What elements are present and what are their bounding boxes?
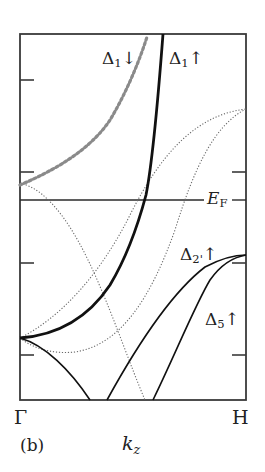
label-delta2prime-up: Δ2'↑ xyxy=(180,246,217,266)
spin-up-arrow-icon: ↑ xyxy=(203,244,217,264)
kpoint-gamma-label: Γ xyxy=(14,408,27,427)
label-subscript: 1 xyxy=(114,56,121,70)
delta1-up-band xyxy=(20,34,163,338)
fermi-symbol: E xyxy=(207,188,219,208)
band-structure-plot xyxy=(0,0,265,472)
spin-up-arrow-icon: ↑ xyxy=(225,309,239,329)
left-ticks xyxy=(20,80,34,355)
panel-label: (b) xyxy=(20,437,44,454)
label-subscript: 2' xyxy=(192,252,203,266)
spin-up-arrow-icon: ↑ xyxy=(189,48,203,68)
plot-frame xyxy=(20,34,246,400)
label-symbol: Δ xyxy=(169,48,181,68)
fermi-level-label: EF xyxy=(207,190,227,210)
label-delta5-up: Δ5↑ xyxy=(205,311,239,331)
axis-variable-subscript: z xyxy=(134,442,141,457)
label-delta1-up: Δ1↑ xyxy=(169,50,203,70)
label-symbol: Δ xyxy=(180,244,192,264)
label-subscript: 5 xyxy=(217,317,224,331)
label-subscript: 1 xyxy=(181,56,188,70)
spin-down-arrow-icon: ↓ xyxy=(122,48,136,68)
dotted-band-upper xyxy=(20,109,246,338)
label-symbol: Δ xyxy=(102,48,114,68)
axis-variable: k xyxy=(122,432,134,454)
solid-band-gamma-descending xyxy=(20,338,90,400)
fermi-subscript: F xyxy=(219,196,227,210)
x-axis-label: kz xyxy=(122,434,140,457)
label-symbol: Δ xyxy=(205,309,217,329)
label-delta1-down: Δ1↓ xyxy=(102,50,136,70)
kpoint-h-label: H xyxy=(232,408,249,427)
